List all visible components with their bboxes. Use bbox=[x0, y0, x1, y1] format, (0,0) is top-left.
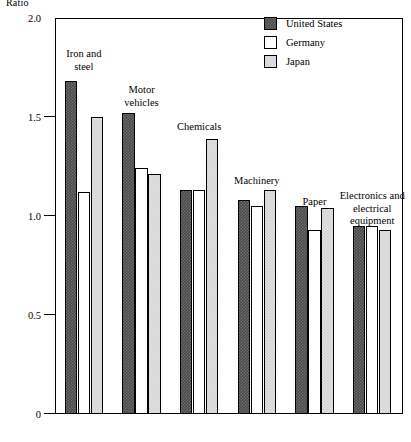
legend-label-japan: Japan bbox=[286, 56, 310, 67]
y-axis-label: 1.5 bbox=[28, 112, 41, 123]
bar[interactable] bbox=[321, 208, 334, 414]
bar[interactable] bbox=[264, 190, 277, 414]
bar[interactable] bbox=[379, 230, 392, 414]
category-label: Motor vehicles bbox=[107, 84, 177, 109]
bar-chart: Ratio 00.51.01.52.0 Iron and steelMotor … bbox=[0, 0, 411, 442]
category-label: Machinery bbox=[220, 175, 294, 188]
legend-swatch-japan bbox=[264, 55, 277, 68]
category-label: Chemicals bbox=[162, 121, 236, 134]
legend-item-japan[interactable]: Japan bbox=[264, 52, 342, 71]
bar[interactable] bbox=[91, 117, 104, 414]
y-axis-label: 0 bbox=[36, 409, 41, 420]
y-axis-label: 2.0 bbox=[28, 13, 41, 24]
legend-swatch-germany bbox=[264, 36, 277, 49]
legend-label-united-states: United States bbox=[286, 18, 342, 29]
bar[interactable] bbox=[65, 81, 78, 414]
bar[interactable] bbox=[366, 226, 379, 414]
bar[interactable] bbox=[193, 190, 206, 414]
bar-group bbox=[238, 19, 277, 414]
bar-group bbox=[122, 19, 161, 414]
bar[interactable] bbox=[78, 192, 91, 414]
legend-label-germany: Germany bbox=[286, 37, 325, 48]
y-axis-tick bbox=[44, 215, 55, 216]
y-axis-tick bbox=[44, 314, 55, 315]
y-axis-tick bbox=[44, 116, 55, 117]
legend-item-germany[interactable]: Germany bbox=[264, 33, 342, 52]
legend-swatch-united-states bbox=[264, 17, 277, 30]
y-axis-tick bbox=[44, 413, 55, 414]
bar[interactable] bbox=[353, 226, 366, 414]
bar[interactable] bbox=[180, 190, 193, 414]
legend-item-united-states[interactable]: United States bbox=[264, 14, 342, 33]
bar[interactable] bbox=[148, 174, 161, 414]
category-label: Iron and steel bbox=[49, 48, 119, 73]
y-axis-title: Ratio bbox=[6, 0, 29, 8]
bar-group bbox=[65, 19, 104, 414]
y-axis-label: 0.5 bbox=[28, 310, 41, 321]
bar[interactable] bbox=[308, 230, 321, 414]
bar[interactable] bbox=[206, 139, 219, 414]
bar[interactable] bbox=[135, 168, 148, 414]
bar[interactable] bbox=[238, 200, 251, 414]
bar-group bbox=[295, 19, 334, 414]
category-label: Electronics and electrical equipment bbox=[329, 190, 411, 228]
bar[interactable] bbox=[295, 206, 308, 414]
bar-group bbox=[180, 19, 219, 414]
bar[interactable] bbox=[122, 113, 135, 414]
bar[interactable] bbox=[251, 206, 264, 414]
y-axis-label: 1.0 bbox=[28, 211, 41, 222]
legend: United States Germany Japan bbox=[264, 14, 342, 71]
